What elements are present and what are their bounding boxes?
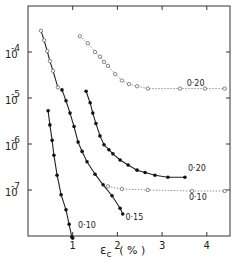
data-series: [39, 29, 226, 240]
y-tick-exponent: -7: [11, 181, 20, 191]
data-point: [76, 140, 80, 144]
series-filled-0.15: [60, 88, 124, 216]
curve-label: 0·20: [187, 79, 205, 88]
data-point: [110, 194, 114, 198]
curve-label: 0·10: [78, 221, 96, 230]
data-point: [223, 87, 226, 90]
data-point: [78, 35, 81, 38]
data-point: [135, 168, 139, 172]
data-point: [98, 134, 102, 138]
data-point: [64, 208, 68, 212]
x-tick-label: 4: [204, 240, 210, 251]
data-point: [146, 87, 149, 90]
data-point: [51, 69, 54, 72]
data-point: [111, 152, 115, 156]
data-point: [55, 173, 59, 177]
data-point: [223, 189, 226, 192]
data-point: [94, 122, 98, 126]
x-axis-symbol: ε: [100, 243, 107, 257]
data-point: [93, 172, 97, 176]
data-point: [166, 175, 170, 179]
data-point: [56, 86, 59, 89]
data-point: [71, 236, 75, 240]
data-point: [106, 185, 109, 188]
series-open-steep: [39, 29, 59, 89]
data-point: [143, 171, 147, 175]
curve-labels: 0·200·200·100·150·10: [78, 79, 207, 230]
axis-ticks: 123410-410-510-610-7: [5, 6, 230, 251]
data-point: [98, 55, 101, 58]
data-point: [183, 175, 187, 179]
data-point: [68, 111, 72, 115]
data-point: [84, 89, 88, 93]
data-point: [48, 60, 51, 63]
data-point: [46, 109, 50, 113]
data-point: [121, 212, 125, 216]
data-point: [39, 29, 42, 32]
series-filled-0.10: [46, 109, 74, 240]
y-tick-exponent: -5: [11, 89, 20, 99]
data-point: [46, 49, 49, 52]
data-point: [88, 101, 92, 105]
data-point: [64, 99, 68, 103]
x-axis-subscript: c: [107, 249, 112, 259]
data-point: [135, 85, 138, 88]
data-point: [85, 160, 89, 164]
data-point: [146, 188, 149, 191]
curve-label: 0·15: [125, 213, 143, 222]
data-point: [178, 87, 181, 90]
plot-area: 123410-410-510-610-7 0·200·200·100·150·1…: [0, 0, 232, 266]
x-tick-label: 1: [70, 240, 76, 251]
data-point: [72, 125, 76, 129]
data-point: [153, 173, 157, 177]
data-point: [86, 42, 89, 45]
data-point: [67, 222, 71, 226]
data-point: [107, 148, 111, 152]
data-point: [127, 82, 130, 85]
data-point: [190, 189, 193, 192]
data-point: [120, 187, 123, 190]
series-filled-0.20: [84, 89, 186, 178]
data-point: [52, 153, 56, 157]
data-point: [48, 123, 52, 127]
data-point: [91, 111, 95, 115]
data-point: [42, 39, 45, 42]
data-point: [106, 64, 109, 67]
data-point: [118, 158, 122, 162]
x-axis-label: εc ( % ): [100, 243, 145, 257]
series-open-0.10: [106, 185, 226, 193]
data-point: [120, 79, 123, 82]
data-point: [93, 50, 96, 53]
data-point: [80, 150, 84, 154]
creep-rate-chart: 123410-410-510-610-7 0·200·200·100·150·1…: [0, 0, 232, 266]
data-point: [126, 163, 130, 167]
data-point: [101, 183, 105, 187]
x-axis-unit: ( % ): [119, 244, 145, 257]
y-tick-exponent: -6: [11, 135, 20, 145]
data-point: [118, 207, 122, 211]
x-tick-label: 3: [159, 240, 165, 251]
data-point: [50, 139, 54, 143]
data-point: [59, 193, 63, 197]
data-point: [102, 60, 105, 63]
data-point: [102, 143, 106, 147]
curve-label: 0·10: [189, 193, 207, 202]
data-point: [60, 88, 64, 92]
data-point: [113, 72, 116, 75]
y-tick-exponent: -4: [11, 43, 20, 53]
curve-label: 0·20: [188, 164, 206, 173]
